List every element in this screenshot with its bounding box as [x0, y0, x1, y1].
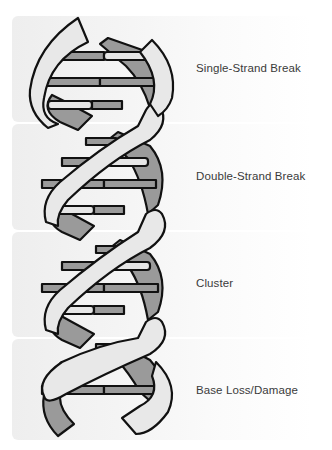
label-double-strand-break: Double-Strand Break — [196, 170, 305, 182]
label-base-loss-damage: Base Loss/Damage — [196, 384, 298, 396]
base-pair-rung — [104, 386, 158, 394]
base-pair-rung — [104, 180, 156, 188]
label-cluster: Cluster — [196, 277, 233, 289]
base-pair-rung — [100, 78, 156, 86]
label-single-strand-break: Single-Strand Break — [196, 62, 301, 74]
base-pair-rung — [94, 306, 124, 314]
base-pair-rung — [104, 284, 158, 292]
base-pair-rung — [92, 101, 122, 109]
base-pair-rung — [94, 206, 124, 214]
base-pair-rung — [48, 101, 92, 109]
